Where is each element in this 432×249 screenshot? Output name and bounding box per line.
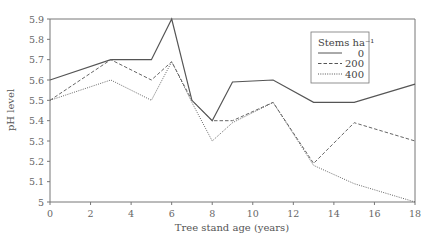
y-tick-label: 5.8 — [29, 34, 44, 45]
y-tick-label: 5.3 — [29, 136, 44, 147]
y-axis-label: pH level — [5, 89, 16, 131]
y-axis: 55.15.25.35.45.55.65.75.85.9 — [29, 14, 50, 208]
y-tick-label: 5 — [38, 197, 44, 208]
legend-title: Stems ha⁻¹ — [318, 37, 374, 48]
legend: Stems ha⁻¹ 0200400 — [311, 32, 374, 83]
x-tick-label: 8 — [209, 208, 215, 219]
x-tick-label: 14 — [328, 208, 340, 219]
line-chart: 55.15.25.35.45.55.65.75.85.9 02468101214… — [0, 0, 432, 249]
x-tick-label: 4 — [128, 208, 134, 219]
legend-label-400: 400 — [345, 69, 364, 80]
x-tick-label: 0 — [47, 208, 53, 219]
x-tick-label: 18 — [409, 208, 421, 219]
legend-label-200: 200 — [345, 58, 364, 69]
y-tick-label: 5.9 — [29, 14, 44, 25]
x-tick-label: 10 — [247, 208, 259, 219]
x-axis: 024681012141618 — [47, 202, 421, 219]
y-tick-label: 5.2 — [29, 156, 44, 167]
legend-label-0: 0 — [358, 48, 364, 59]
x-tick-label: 6 — [169, 208, 175, 219]
y-tick-label: 5.6 — [29, 75, 44, 86]
y-tick-label: 5.1 — [29, 176, 44, 187]
x-tick-label: 12 — [287, 208, 299, 219]
x-tick-label: 2 — [88, 208, 94, 219]
y-tick-label: 5.4 — [29, 115, 44, 126]
x-tick-label: 16 — [368, 208, 380, 219]
y-tick-label: 5.7 — [29, 54, 44, 65]
y-tick-label: 5.5 — [29, 95, 44, 106]
x-axis-label: Tree stand age (years) — [175, 222, 289, 233]
